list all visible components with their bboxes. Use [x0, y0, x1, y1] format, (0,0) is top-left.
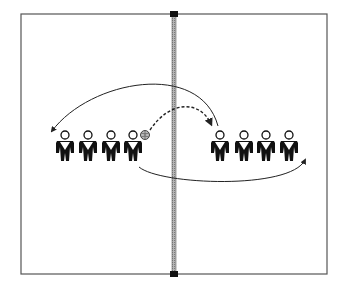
ball-icon [141, 131, 150, 140]
net-post-top [170, 11, 178, 17]
net-post-bottom [170, 271, 178, 277]
drill-diagram [0, 0, 339, 295]
